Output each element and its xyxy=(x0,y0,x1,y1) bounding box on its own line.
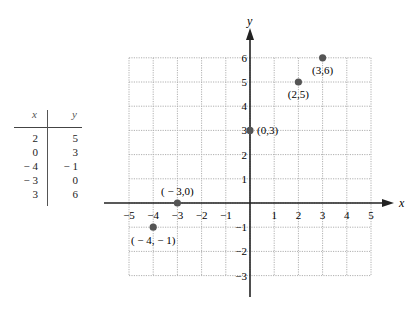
point-label: (2,5) xyxy=(288,88,309,101)
y-tick-label: 1 xyxy=(242,173,248,185)
axes: xy xyxy=(104,14,405,297)
coordinate-plane: xy −5−4−3−2−112345654321−1−2−3 (2,5)(0,3… xyxy=(0,0,416,313)
x-tick-label: −2 xyxy=(196,209,208,221)
x-tick-label: 2 xyxy=(296,209,302,221)
y-axis-arrow-icon xyxy=(246,28,254,40)
y-tick-label: 5 xyxy=(242,76,248,88)
data-points: (2,5)(0,3)( − 4, − 1)( − 3,0)(3,6) xyxy=(131,54,334,247)
data-point xyxy=(174,199,181,206)
data-point xyxy=(319,54,326,61)
data-point xyxy=(246,127,253,134)
x-tick-label: −4 xyxy=(147,209,159,221)
y-tick-label: −3 xyxy=(235,270,247,282)
point-label: ( − 3,0) xyxy=(161,185,194,198)
y-tick-label: 4 xyxy=(242,100,248,112)
data-point xyxy=(295,78,302,85)
x-tick-label: −3 xyxy=(172,209,184,221)
point-label: ( − 4, − 1) xyxy=(131,234,176,247)
y-axis-label: y xyxy=(246,14,253,28)
x-tick-label: 3 xyxy=(320,209,326,221)
x-tick-label: 4 xyxy=(344,209,350,221)
y-tick-label: −2 xyxy=(235,245,247,257)
y-tick-label: 2 xyxy=(242,149,248,161)
x-tick-label: 5 xyxy=(368,209,374,221)
point-label: (0,3) xyxy=(257,124,278,137)
tick-labels: −5−4−3−2−112345654321−1−2−3 xyxy=(123,52,374,282)
x-tick-label: −1 xyxy=(220,209,232,221)
x-tick-label: 1 xyxy=(271,209,277,221)
x-axis-label: x xyxy=(398,196,405,210)
x-tick-label: −5 xyxy=(123,209,135,221)
y-tick-label: 6 xyxy=(242,52,248,64)
point-label: (3,6) xyxy=(312,64,333,77)
data-point xyxy=(150,224,157,231)
x-axis-arrow-icon xyxy=(382,199,394,207)
y-tick-label: −1 xyxy=(235,221,247,233)
